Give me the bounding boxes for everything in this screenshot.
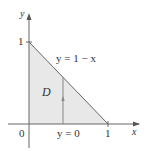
curve-label-hypotenuse: y = 1 − x xyxy=(56,53,96,64)
x-axis-label: x xyxy=(132,127,136,137)
x-tick-label: 1 xyxy=(105,128,111,139)
y-axis-arrow-icon xyxy=(27,13,32,20)
y-tick-label: 1 xyxy=(18,36,24,47)
origin-label: 0 xyxy=(19,128,25,139)
y-axis-label: y xyxy=(20,9,24,19)
region-label: D xyxy=(42,86,51,98)
curve-label-bottom: y = 0 xyxy=(57,128,80,139)
